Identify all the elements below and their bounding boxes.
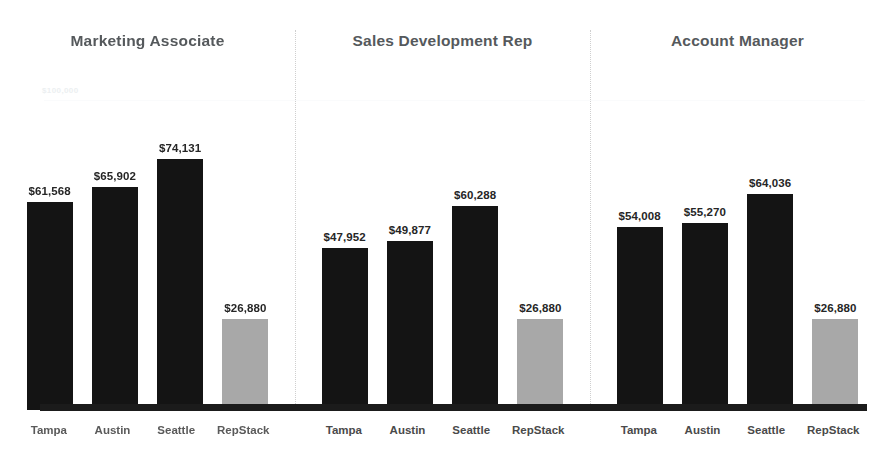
- tick-label-tampa: Tampa: [616, 424, 662, 436]
- tick-label-austin: Austin: [680, 424, 726, 436]
- bar-column-repstack[interactable]: $26,880: [517, 72, 564, 410]
- tick-label-seattle: Seattle: [153, 424, 199, 436]
- panel-title: Marketing Associate: [0, 32, 295, 50]
- bar-austin[interactable]: [682, 223, 728, 410]
- bar-value-label: $47,952: [323, 231, 365, 243]
- bar-repstack[interactable]: [812, 319, 858, 410]
- bar-value-label: $61,568: [28, 185, 70, 197]
- tick-label-tampa: Tampa: [321, 424, 367, 436]
- plot-area: $47,952 $49,877 $60,288 $26,880: [321, 72, 564, 410]
- bar-column-austin[interactable]: $49,877: [386, 72, 433, 410]
- x-axis-tick-labels: Tampa Austin Seattle RepStack: [26, 424, 269, 436]
- panel-sales-development-rep: Sales Development Rep $47,952 $49,877 $6…: [295, 0, 590, 466]
- tick-label-repstack: RepStack: [512, 424, 564, 436]
- bar-repstack[interactable]: [222, 319, 268, 410]
- bar-repstack[interactable]: [517, 319, 563, 410]
- bar-value-label: $54,008: [618, 210, 660, 222]
- panel-divider: [295, 30, 296, 410]
- bar-seattle[interactable]: [452, 206, 498, 410]
- tick-label-seattle: Seattle: [743, 424, 789, 436]
- bar-column-seattle[interactable]: $74,131: [157, 72, 204, 410]
- tick-label-austin: Austin: [90, 424, 136, 436]
- panel-account-manager: Account Manager $54,008 $55,270 $64,036 …: [590, 0, 885, 466]
- bar-value-label: $49,877: [389, 224, 431, 236]
- panel-title: Sales Development Rep: [295, 32, 590, 50]
- bar-value-label: $74,131: [159, 142, 201, 154]
- tick-label-repstack: RepStack: [217, 424, 269, 436]
- bar-value-label: $26,880: [814, 302, 856, 314]
- bar-value-label: $60,288: [454, 189, 496, 201]
- x-axis-baseline: [40, 404, 867, 411]
- plot-area: $61,568 $65,902 $74,131 $26,880: [26, 72, 269, 410]
- panel-title: Account Manager: [590, 32, 885, 50]
- bar-value-label: $65,902: [94, 170, 136, 182]
- bar-value-label: $64,036: [749, 177, 791, 189]
- bar-value-label: $55,270: [684, 206, 726, 218]
- bar-column-repstack[interactable]: $26,880: [812, 72, 859, 410]
- bar-column-austin[interactable]: $65,902: [91, 72, 138, 410]
- x-axis-tick-labels: Tampa Austin Seattle RepStack: [321, 424, 564, 436]
- bar-column-austin[interactable]: $55,270: [681, 72, 728, 410]
- tick-label-tampa: Tampa: [26, 424, 72, 436]
- bar-austin[interactable]: [92, 187, 138, 410]
- bar-column-seattle[interactable]: $60,288: [452, 72, 499, 410]
- panel-divider: [590, 30, 591, 410]
- bar-column-repstack[interactable]: $26,880: [222, 72, 269, 410]
- plot-area: $54,008 $55,270 $64,036 $26,880: [616, 72, 859, 410]
- bar-austin[interactable]: [387, 241, 433, 410]
- bar-tampa[interactable]: [617, 227, 663, 410]
- bar-tampa[interactable]: [322, 248, 368, 410]
- bar-tampa[interactable]: [27, 202, 73, 410]
- bar-value-label: $26,880: [519, 302, 561, 314]
- bar-column-tampa[interactable]: $54,008: [616, 72, 663, 410]
- grouped-bar-chart: $100,000 Marketing Associate $61,568 $65…: [0, 0, 885, 466]
- bar-column-tampa[interactable]: $61,568: [26, 72, 73, 410]
- bar-seattle[interactable]: [157, 159, 203, 410]
- panel-marketing-associate: Marketing Associate $61,568 $65,902 $74,…: [0, 0, 295, 466]
- bar-seattle[interactable]: [747, 194, 793, 410]
- tick-label-austin: Austin: [385, 424, 431, 436]
- bar-value-label: $26,880: [224, 302, 266, 314]
- bar-column-tampa[interactable]: $47,952: [321, 72, 368, 410]
- bar-column-seattle[interactable]: $64,036: [747, 72, 794, 410]
- x-axis-tick-labels: Tampa Austin Seattle RepStack: [616, 424, 859, 436]
- tick-label-seattle: Seattle: [448, 424, 494, 436]
- tick-label-repstack: RepStack: [807, 424, 859, 436]
- panel-container: Marketing Associate $61,568 $65,902 $74,…: [0, 0, 885, 466]
